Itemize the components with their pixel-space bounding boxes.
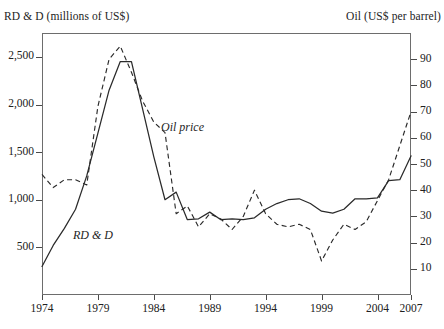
right-axis-tick-label: 30 bbox=[420, 209, 432, 221]
right-axis-tick-label: 10 bbox=[420, 261, 432, 273]
chart-page: RD & D (millions of US$) Oil (US$ per ba… bbox=[0, 0, 444, 329]
left-axis-tick-label: 1,000 bbox=[0, 192, 34, 204]
bottom-axis-tick bbox=[322, 295, 323, 300]
right-axis-tick-label: 40 bbox=[420, 183, 432, 195]
right-axis-tick bbox=[411, 85, 417, 86]
right-axis-tick bbox=[411, 138, 417, 139]
bottom-axis-tick bbox=[98, 295, 99, 300]
right-axis-tick bbox=[411, 269, 417, 270]
left-axis-tick bbox=[36, 57, 42, 58]
right-axis-tick-label: 90 bbox=[420, 52, 432, 64]
right-axis-tick bbox=[411, 243, 417, 244]
bottom-axis-tick-label: 1999 bbox=[297, 302, 347, 314]
right-axis-tick bbox=[411, 59, 417, 60]
right-axis-tick-label: 70 bbox=[420, 104, 432, 116]
plot-area bbox=[42, 33, 411, 295]
right-axis-tick bbox=[411, 216, 417, 217]
series-label-oil: Oil price bbox=[161, 120, 204, 135]
right-axis-tick bbox=[411, 112, 417, 113]
series-label-rdd: RD & D bbox=[73, 228, 113, 243]
right-axis-tick bbox=[411, 190, 417, 191]
left-axis-tick bbox=[36, 200, 42, 201]
left-axis-tick bbox=[36, 152, 42, 153]
bottom-axis-tick-label: 1989 bbox=[185, 302, 235, 314]
bottom-axis-tick bbox=[154, 295, 155, 300]
chart-curves bbox=[42, 33, 411, 295]
left-axis-tick-label: 2,500 bbox=[0, 49, 34, 61]
bottom-axis-tick-label: 1979 bbox=[73, 302, 123, 314]
bottom-axis-tick bbox=[411, 295, 412, 300]
bottom-axis-tick bbox=[42, 295, 43, 300]
bottom-axis-tick-label: 1984 bbox=[129, 302, 179, 314]
bottom-axis-tick-label: 1974 bbox=[17, 302, 67, 314]
right-axis-tick bbox=[411, 164, 417, 165]
left-axis-tick-label: 2,000 bbox=[0, 97, 34, 109]
right-axis-tick-label: 80 bbox=[420, 78, 432, 90]
bottom-axis-tick bbox=[266, 295, 267, 300]
right-axis-tick-label: 50 bbox=[420, 157, 432, 169]
right-axis-title: Oil (US$ per barrel) bbox=[346, 10, 441, 22]
bottom-axis-tick-label: 2007 bbox=[386, 302, 436, 314]
left-axis-tick bbox=[36, 105, 42, 106]
left-axis-title: RD & D (millions of US$) bbox=[4, 10, 129, 22]
right-axis-tick-label: 60 bbox=[420, 130, 432, 142]
bottom-axis-tick bbox=[210, 295, 211, 300]
left-axis-tick-label: 1,500 bbox=[0, 145, 34, 157]
bottom-axis-tick bbox=[378, 295, 379, 300]
right-axis-tick-label: 20 bbox=[420, 235, 432, 247]
left-axis-tick bbox=[36, 247, 42, 248]
left-axis-tick-label: 500 bbox=[0, 240, 34, 252]
bottom-axis-tick-label: 1994 bbox=[241, 302, 291, 314]
